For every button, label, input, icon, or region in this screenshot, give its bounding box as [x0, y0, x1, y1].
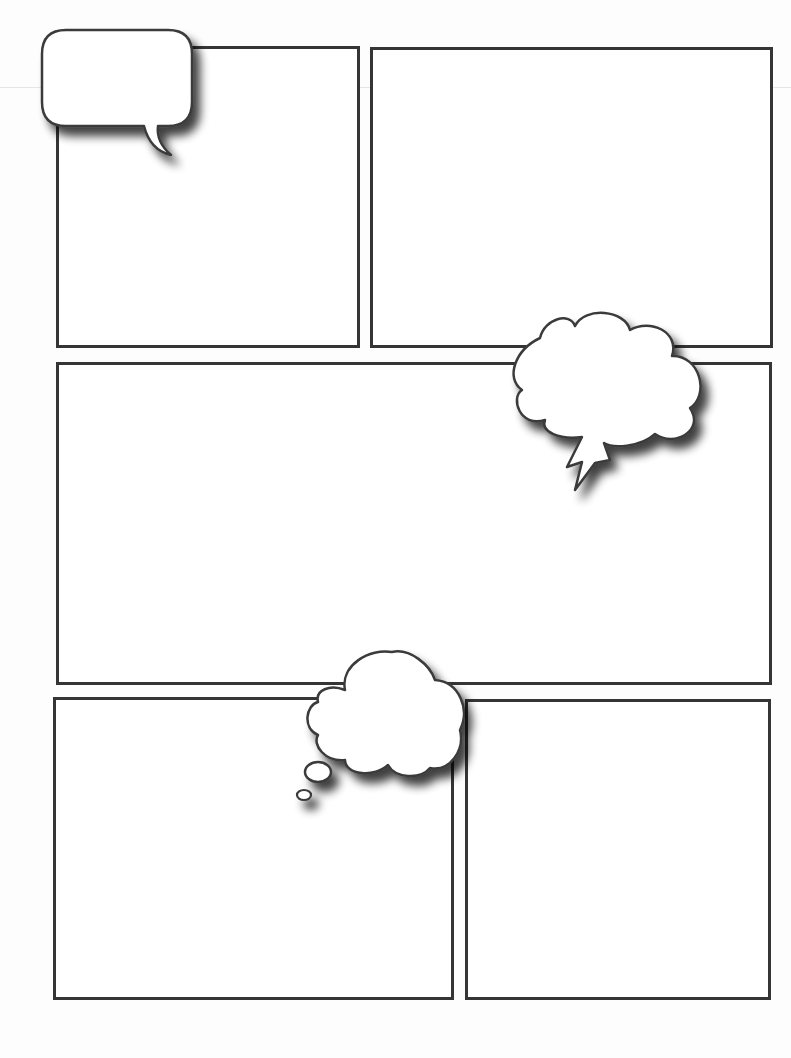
- thought-bubble-large: [305, 762, 331, 782]
- comic-panel-top-right[interactable]: [370, 47, 773, 348]
- comic-panel-bottom-right[interactable]: [465, 699, 771, 1000]
- thought-bubble-small: [297, 790, 311, 800]
